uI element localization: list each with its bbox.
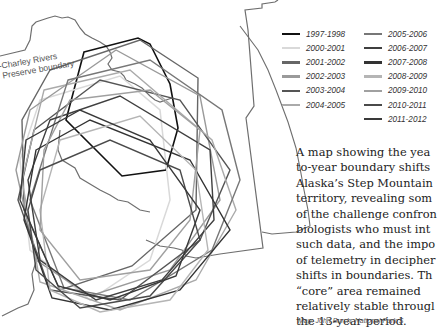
caption-line: relatively stable througl	[296, 299, 441, 314]
legend-column-left: 1997-1998 2000-2001 2001-2002 2002-2003 …	[282, 27, 345, 112]
legend-swatch-line	[282, 61, 300, 63]
caption-line: of telemetry in decipher	[296, 253, 441, 268]
legend-swatch-line	[364, 104, 382, 106]
territory-2010-2011	[28, 140, 200, 308]
legend-item-2000-2001: 2000-2001	[282, 41, 345, 55]
legend-label: 2002-2003	[306, 72, 345, 81]
legend-item-2007-2008: 2007-2008	[364, 55, 427, 69]
caption-line: A map showing the yea	[296, 145, 441, 160]
legend-swatch-line	[364, 90, 382, 92]
legend-swatch-line	[364, 75, 382, 77]
legend-column-right: 2005-2006 2006-2007 2007-2008 2008-2009 …	[364, 27, 427, 126]
legend-swatch-line	[282, 75, 300, 77]
territory-2007-2008	[24, 120, 230, 310]
legend-label: 2009-2010	[388, 86, 427, 95]
legend-label: 2008-2009	[388, 72, 427, 81]
caption-line: biologists who must int	[296, 222, 441, 237]
caption-line: territory, revealing som	[296, 191, 441, 206]
legend-swatch-line	[364, 47, 382, 49]
legend-item-1997-1998: 1997-1998	[282, 27, 345, 41]
legend-label: 2004-2005	[306, 101, 345, 110]
map-caption: A map showing the yea to-year boundary s…	[296, 145, 441, 329]
map-credit: Map: John Burch, National Park S	[298, 317, 403, 324]
caption-line: shifts in boundaries. Th	[296, 268, 441, 283]
legend-item-2009-2010: 2009-2010	[364, 84, 427, 98]
legend-label: 2003-2004	[306, 86, 345, 95]
legend-item-2011-2012: 2011-2012	[364, 112, 427, 126]
legend-item-2010-2011: 2010-2011	[364, 98, 427, 112]
caption-line: such data, and the impo	[296, 237, 441, 252]
legend-swatch-line	[282, 90, 300, 92]
caption-line: to-year boundary shifts	[296, 160, 441, 175]
legend-label: 2006-2007	[388, 44, 427, 53]
legend-swatch-line	[282, 47, 300, 49]
legend-swatch-line	[364, 61, 382, 63]
legend-label: 2007-2008	[388, 58, 427, 67]
legend-item-2001-2002: 2001-2002	[282, 55, 345, 69]
legend-item-2006-2007: 2006-2007	[364, 41, 427, 55]
legend-label: 1997-1998	[306, 30, 345, 39]
legend-swatch-line	[282, 104, 300, 106]
legend-label: 2001-2002	[306, 58, 345, 67]
legend-label: 2010-2011	[388, 101, 427, 110]
legend-item-2005-2006: 2005-2006	[364, 27, 427, 41]
legend-item-2002-2003: 2002-2003	[282, 70, 345, 84]
legend-item-2004-2005: 2004-2005	[282, 98, 345, 112]
legend-item-2008-2009: 2008-2009	[364, 70, 427, 84]
legend-swatch-line	[364, 118, 382, 120]
caption-line: of the challenge confron	[296, 207, 441, 222]
caption-line: “core” area remained	[296, 284, 441, 299]
legend-swatch-line	[364, 33, 382, 35]
legend-item-2003-2004: 2003-2004	[282, 84, 345, 98]
caption-line: Alaska’s Step Mountain	[296, 176, 441, 191]
legend-swatch-line	[282, 33, 300, 35]
legend-label: 2005-2006	[388, 30, 427, 39]
legend-label: 2000-2001	[306, 44, 345, 53]
legend-label: 2011-2012	[388, 115, 427, 124]
